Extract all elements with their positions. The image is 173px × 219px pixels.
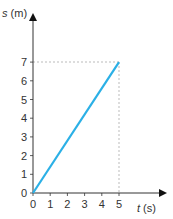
y-tick-label: 5 (21, 94, 27, 106)
y-ticks: 01234567 (21, 56, 33, 199)
y-tick-label: 7 (21, 56, 27, 68)
series-line (33, 62, 119, 193)
chart: 012345 01234567 s (m) t (s) (0, 0, 173, 219)
x-tick-label: 5 (116, 198, 122, 210)
y-tick-label: 0 (21, 187, 27, 199)
y-axis-label: s (m) (2, 7, 27, 19)
x-tick-label: 3 (82, 198, 88, 210)
y-tick-label: 6 (21, 75, 27, 87)
x-axis-arrow-icon (159, 189, 167, 197)
y-tick-label: 2 (21, 150, 27, 162)
x-tick-label: 4 (99, 198, 105, 210)
x-ticks: 012345 (30, 193, 122, 210)
x-tick-label: 2 (64, 198, 70, 210)
x-axis-label: t (s) (137, 202, 156, 214)
x-tick-label: 1 (47, 198, 53, 210)
y-axis-arrow-icon (29, 13, 37, 21)
y-tick-label: 3 (21, 131, 27, 143)
y-tick-label: 1 (21, 168, 27, 180)
y-tick-label: 4 (21, 112, 27, 124)
x-tick-label: 0 (30, 198, 36, 210)
